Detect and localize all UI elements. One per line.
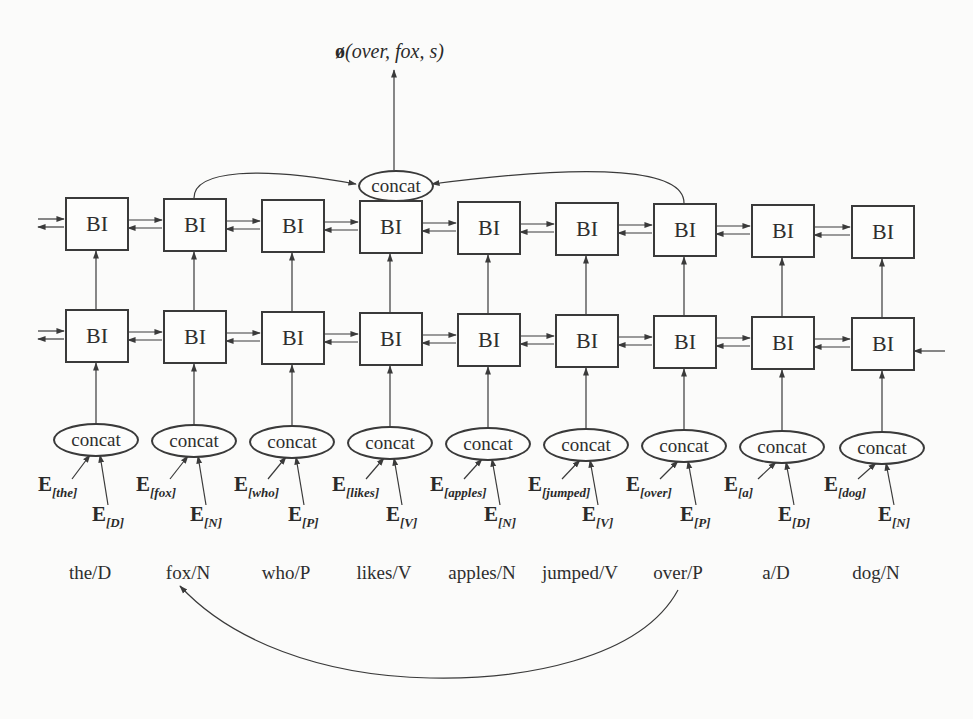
embedding-symbol: E	[288, 502, 302, 526]
tag-embedding-label-8: E[D]	[778, 502, 810, 531]
tag-embedding-label-3: E[P]	[288, 502, 319, 531]
concat-label: concat	[463, 433, 513, 455]
token-4: likes/V	[357, 562, 412, 584]
embedding-symbol: E	[528, 472, 542, 496]
word-embedding-index: [a]	[738, 485, 753, 500]
lower-cell-label: BI	[674, 329, 696, 355]
upper-bilstm-cell-1: BI	[65, 197, 129, 251]
word-embedding-label-2: E[fox]	[136, 472, 176, 501]
upper-bilstm-cell-7: BI	[653, 203, 717, 257]
tag-embedding-index: [V]	[400, 515, 417, 530]
tag-embedding-label-9: E[N]	[878, 502, 910, 531]
embedding-symbol: E	[778, 502, 792, 526]
upper-cell-label: BI	[282, 213, 304, 239]
embedding-symbol: E	[824, 472, 838, 496]
word-embedding-label-3: E[who]	[234, 472, 279, 501]
input-concat-node-8: concat	[739, 430, 825, 464]
embedding-symbol: E	[38, 472, 52, 496]
input-concat-node-6: concat	[543, 428, 629, 462]
tag-embedding-index: [P]	[694, 515, 711, 530]
output-function-label: ø(over, fox, s)	[335, 40, 444, 63]
lower-bilstm-cell-4: BI	[359, 312, 423, 366]
embedding-symbol: E	[484, 502, 498, 526]
upper-bilstm-cell-6: BI	[555, 202, 619, 256]
tag-embedding-label-7: E[P]	[680, 502, 711, 531]
input-concat-node-2: concat	[151, 424, 237, 458]
word-embedding-label-6: E[jumped]	[528, 472, 590, 501]
lower-bilstm-cell-5: BI	[457, 313, 521, 367]
token-5: apples/N	[448, 562, 516, 584]
word-embedding-index: [the]	[52, 485, 77, 500]
word-embedding-index: [jumped]	[542, 485, 590, 500]
lower-cell-label: BI	[380, 326, 402, 352]
concat-label: concat	[71, 429, 121, 451]
tag-embedding-label-5: E[N]	[484, 502, 516, 531]
tag-embedding-label-2: E[N]	[190, 502, 222, 531]
word-embedding-index: [apples]	[444, 485, 487, 500]
embedding-symbol: E	[190, 502, 204, 526]
lower-bilstm-cell-3: BI	[261, 311, 325, 365]
lower-bilstm-cell-7: BI	[653, 315, 717, 369]
embedding-symbol: E	[582, 502, 596, 526]
token-6: jumped/V	[542, 562, 618, 584]
token-1: the/D	[69, 562, 111, 584]
embedding-symbol: E	[386, 502, 400, 526]
word-embedding-index: [over]	[640, 485, 672, 500]
embedding-symbol: E	[136, 472, 150, 496]
concat-label: concat	[659, 435, 709, 457]
tag-embedding-label-6: E[V]	[582, 502, 613, 531]
upper-bilstm-cell-4: BI	[359, 200, 423, 254]
concat-label: concat	[267, 431, 317, 453]
lower-cell-label: BI	[282, 325, 304, 351]
upper-cell-label: BI	[872, 219, 894, 245]
concat-label: concat	[857, 437, 907, 459]
edges	[38, 70, 945, 678]
phi-symbol: ø	[335, 40, 345, 62]
word-embedding-index: [who]	[248, 485, 279, 500]
concat-label: concat	[757, 436, 807, 458]
embedding-symbol: E	[724, 472, 738, 496]
upper-bilstm-cell-3: BI	[261, 199, 325, 253]
tag-embedding-label-1: E[D]	[92, 502, 124, 531]
lower-cell-label: BI	[478, 327, 500, 353]
input-concat-node-1: concat	[53, 423, 139, 457]
lower-bilstm-cell-9: BI	[851, 317, 915, 371]
token-3: who/P	[262, 562, 311, 584]
upper-cell-label: BI	[772, 218, 794, 244]
upper-bilstm-cell-9: BI	[851, 205, 915, 259]
upper-cell-label: BI	[380, 214, 402, 240]
tag-embedding-index: [V]	[596, 515, 613, 530]
word-embedding-index: [fox]	[150, 485, 176, 500]
embedding-symbol: E	[626, 472, 640, 496]
tag-embedding-index: [N]	[892, 515, 910, 530]
token-9: dog/N	[852, 562, 900, 584]
tag-embedding-label-4: E[V]	[386, 502, 417, 531]
upper-cell-label: BI	[184, 212, 206, 238]
top-concat-label: concat	[371, 175, 421, 197]
word-embedding-label-7: E[over]	[626, 472, 672, 501]
lower-cell-label: BI	[86, 323, 108, 349]
input-concat-node-5: concat	[445, 427, 531, 461]
upper-cell-label: BI	[86, 211, 108, 237]
embedding-symbol: E	[430, 472, 444, 496]
word-embedding-label-1: E[the]	[38, 472, 77, 501]
token-8: a/D	[762, 562, 789, 584]
top-concat-node: concat	[358, 170, 434, 202]
tag-embedding-index: [P]	[302, 515, 319, 530]
embedding-symbol: E	[680, 502, 694, 526]
embedding-symbol: E	[332, 472, 346, 496]
tag-embedding-index: [D]	[792, 515, 810, 530]
word-embedding-index: [likes]	[346, 485, 379, 500]
word-embedding-label-5: E[apples]	[430, 472, 487, 501]
embedding-symbol: E	[234, 472, 248, 496]
word-embedding-label-4: E[likes]	[332, 472, 379, 501]
lower-cell-label: BI	[772, 330, 794, 356]
word-embedding-index: [dog]	[838, 485, 866, 500]
token-7: over/P	[653, 562, 703, 584]
lower-cell-label: BI	[576, 328, 598, 354]
concat-label: concat	[365, 432, 415, 454]
word-embedding-label-9: E[dog]	[824, 472, 866, 501]
word-embedding-label-8: E[a]	[724, 472, 753, 501]
input-concat-node-3: concat	[249, 425, 335, 459]
upper-cell-label: BI	[674, 217, 696, 243]
